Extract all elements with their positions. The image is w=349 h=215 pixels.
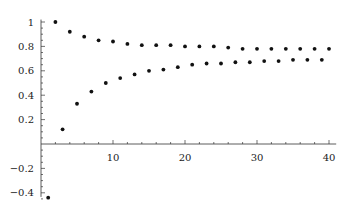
data-point <box>118 76 122 80</box>
data-point <box>183 45 187 49</box>
data-point <box>90 90 94 94</box>
data-point <box>234 60 238 64</box>
data-point <box>298 47 302 51</box>
data-point <box>46 196 50 200</box>
data-point <box>255 47 259 51</box>
y-tick-label: 0.6 <box>18 65 34 76</box>
data-point <box>212 45 216 49</box>
data-point <box>327 47 331 51</box>
data-point <box>111 40 115 44</box>
data-point <box>270 47 274 51</box>
data-points <box>46 20 331 199</box>
data-point <box>169 43 173 47</box>
x-tick-label: 20 <box>179 152 192 163</box>
data-point <box>126 42 130 46</box>
data-point <box>190 63 194 67</box>
data-point <box>277 59 281 63</box>
data-point <box>262 59 266 63</box>
data-point <box>104 81 108 85</box>
y-tick-label: 1 <box>28 17 34 28</box>
data-point <box>133 73 137 77</box>
axes <box>41 20 336 197</box>
data-point <box>140 43 144 47</box>
tick-labels: 10203040−0.4−0.20.20.40.60.81 <box>10 17 336 199</box>
data-point <box>198 45 202 49</box>
data-point <box>313 47 317 51</box>
data-point <box>54 20 58 24</box>
data-point <box>147 69 151 73</box>
scatter-plot: 10203040−0.4−0.20.20.40.60.81 <box>0 0 349 215</box>
x-tick-label: 30 <box>251 152 264 163</box>
data-point <box>68 30 72 34</box>
data-point <box>320 58 324 62</box>
data-point <box>75 102 79 106</box>
data-point <box>219 62 223 66</box>
y-tick-label: 0.8 <box>18 41 34 52</box>
x-tick-label: 40 <box>323 152 336 163</box>
data-point <box>82 35 86 39</box>
data-point <box>248 60 252 64</box>
y-tick-label: 0.4 <box>18 90 34 101</box>
data-point <box>241 47 245 51</box>
data-point <box>291 58 295 62</box>
data-point <box>154 43 158 47</box>
data-point <box>226 46 230 50</box>
data-point <box>205 62 209 66</box>
y-tick-label: −0.2 <box>10 163 34 174</box>
y-tick-label: −0.4 <box>10 187 34 198</box>
data-point <box>284 47 288 51</box>
y-tick-label: 0.2 <box>18 114 34 125</box>
x-tick-label: 10 <box>107 152 120 163</box>
data-point <box>97 38 101 42</box>
data-point <box>162 68 166 72</box>
data-point <box>61 127 65 131</box>
data-point <box>306 58 310 62</box>
data-point <box>176 65 180 69</box>
